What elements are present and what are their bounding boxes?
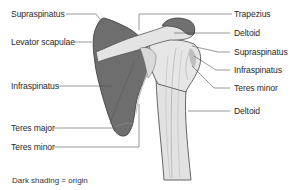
- label-teres-minor-left: Teres minor: [11, 142, 55, 152]
- label-teres-minor-right: Teres minor: [234, 83, 278, 93]
- label-trapezius: Trapezius: [234, 9, 271, 19]
- label-infraspinatus-right: Infraspinatus: [234, 65, 282, 75]
- leader-teres-minor-right: [192, 66, 214, 88]
- label-deltoid-bottom: Deltoid: [234, 106, 260, 116]
- label-teres-major: Teres major: [11, 123, 55, 133]
- label-infraspinatus-left: Infraspinatus: [11, 81, 59, 91]
- label-levator-scapulae: Levator scapulae: [11, 37, 75, 47]
- shoulder-anatomy-diagram: Supraspinatus Levator scapulae Infraspin…: [0, 0, 292, 190]
- label-supraspinatus-right: Supraspinatus: [234, 47, 288, 57]
- label-supraspinatus-left: Supraspinatus: [11, 9, 65, 19]
- legend-caption: Dark shading = origin: [12, 176, 88, 185]
- label-deltoid-top: Deltoid: [234, 28, 260, 38]
